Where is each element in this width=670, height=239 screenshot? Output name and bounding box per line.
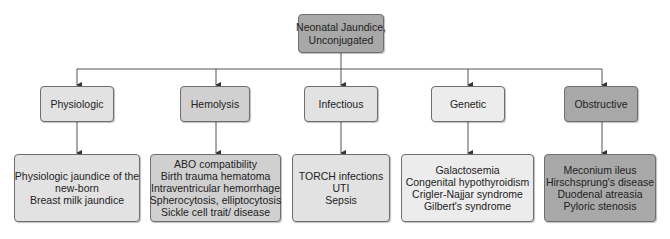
cause-item: UTI xyxy=(333,182,350,194)
root-node: Neonatal Jaundice, Unconjugated xyxy=(298,14,384,53)
cause-item: ABO compatibility xyxy=(174,158,257,170)
root-label-line-1: Neonatal Jaundice, xyxy=(296,21,386,34)
category-hemolysis: Hemolysis xyxy=(180,86,250,122)
cause-item: Gilbert's syndrome xyxy=(424,200,511,212)
root-label-line-2: Unconjugated xyxy=(309,34,374,47)
category-label: Physiologic xyxy=(50,98,103,110)
cause-item: Crigler-Najjar syndrome xyxy=(412,188,523,200)
category-infectious: Infectious xyxy=(304,86,378,122)
causes-hemolysis: ABO compatibility Birth trauma hematoma … xyxy=(150,154,281,222)
category-physiologic: Physiologic xyxy=(40,86,114,122)
cause-item: new-born xyxy=(55,182,99,194)
category-label: Infectious xyxy=(319,98,364,110)
cause-item: Meconium ileus xyxy=(564,164,637,176)
cause-item: Birth trauma hematoma xyxy=(161,170,271,182)
cause-item: Hirschsprung's disease xyxy=(546,176,654,188)
cause-item: Physiologic jaundice of the xyxy=(15,170,139,182)
cause-item: Pyloric stenosis xyxy=(564,200,637,212)
causes-genetic: Galactosemia Congenital hypothyroidism C… xyxy=(401,154,534,222)
category-label: Genetic xyxy=(450,98,486,110)
causes-infectious: TORCH infections UTI Sepsis xyxy=(292,154,390,222)
cause-item: Spherocytosis, elliptocytosis xyxy=(150,194,281,206)
category-label: Hemolysis xyxy=(191,98,239,110)
cause-item: Sickle cell trait/ disease xyxy=(161,206,270,218)
causes-physiologic: Physiologic jaundice of the new-born Bre… xyxy=(14,154,140,222)
cause-item: Duodenal atreasia xyxy=(557,188,642,200)
cause-item: Intraventricular hemorrhage xyxy=(151,182,280,194)
category-obstructive: Obstructive xyxy=(564,86,638,122)
category-genetic: Genetic xyxy=(431,86,505,122)
cause-item: Congenital hypothyroidism xyxy=(406,176,530,188)
causes-obstructive: Meconium ileus Hirschsprung's disease Du… xyxy=(544,154,656,222)
cause-item: TORCH infections xyxy=(299,170,383,182)
cause-item: Breast milk jaundice xyxy=(30,194,124,206)
cause-item: Galactosemia xyxy=(435,164,499,176)
cause-item: Sepsis xyxy=(325,194,357,206)
category-label: Obstructive xyxy=(574,98,627,110)
